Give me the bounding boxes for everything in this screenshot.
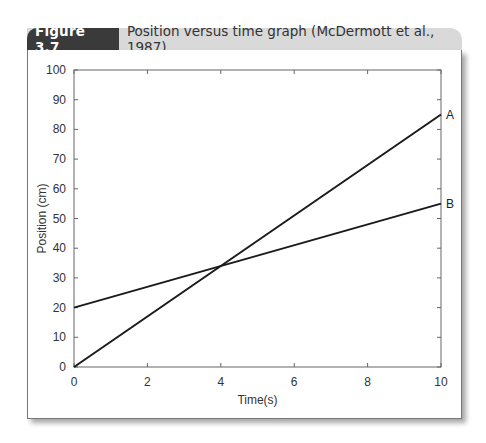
y-tick-label: 40 [53, 241, 67, 255]
x-tick-label: 4 [217, 375, 224, 389]
y-tick-label: 50 [53, 212, 67, 226]
x-tick-label: 2 [144, 375, 151, 389]
y-tick-label: 20 [53, 301, 67, 315]
series-label-a: A [446, 108, 454, 122]
y-tick-label: 80 [53, 122, 67, 136]
y-tick-label: 60 [53, 182, 67, 196]
x-tick-label: 8 [364, 375, 371, 389]
series-label-b: B [446, 197, 454, 211]
series-line-a [74, 115, 441, 367]
x-tick-label: 0 [71, 375, 78, 389]
x-axis-label: Time(s) [237, 393, 277, 407]
y-tick-label: 0 [59, 360, 66, 374]
x-tick-label: 10 [434, 375, 448, 389]
y-tick-label: 100 [46, 63, 66, 77]
series-line-b [74, 204, 441, 308]
x-tick-label: 6 [291, 375, 298, 389]
y-tick-label: 10 [53, 330, 67, 344]
y-tick-label: 90 [53, 93, 67, 107]
y-axis-label: Position (cm) [35, 183, 49, 253]
y-tick-label: 70 [53, 152, 67, 166]
y-tick-label: 30 [53, 271, 67, 285]
position-time-chart: 02468100102030405060708090100Time(s)Posi… [0, 0, 486, 443]
